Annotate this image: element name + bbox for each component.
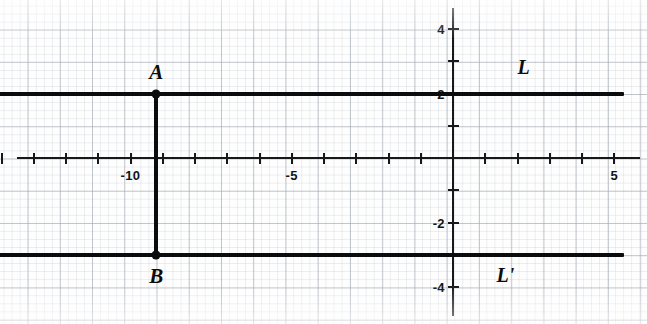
x-tick-label: -10 <box>121 168 141 183</box>
y-tick-label: 4 <box>415 22 445 37</box>
x-tick <box>355 153 357 164</box>
x-tick <box>613 153 615 164</box>
graph-line-L-prime <box>0 253 624 257</box>
y-tick <box>448 125 459 127</box>
graph-line-L <box>0 92 624 96</box>
y-tick <box>448 28 459 30</box>
x-tick <box>549 153 551 164</box>
x-axis <box>17 157 640 159</box>
x-tick <box>194 153 196 164</box>
y-tick-label: -2 <box>415 215 445 230</box>
y-axis <box>452 8 454 316</box>
x-tick <box>97 153 99 164</box>
y-tick <box>448 222 459 224</box>
x-tick <box>388 153 390 164</box>
line-label-L: L <box>518 56 530 79</box>
x-tick <box>162 153 164 164</box>
point-a <box>152 89 161 98</box>
x-tick <box>259 153 261 164</box>
x-tick <box>323 153 325 164</box>
x-tick <box>291 153 293 164</box>
segment-AB <box>154 94 158 255</box>
line-label-L-prime: L' <box>497 264 515 287</box>
x-tick <box>33 153 35 164</box>
y-tick <box>448 60 459 62</box>
point-label-b: B <box>149 264 163 289</box>
point-label-a: A <box>149 60 163 85</box>
x-tick <box>1 153 3 164</box>
x-tick <box>226 153 228 164</box>
y-tick <box>448 189 459 191</box>
x-tick-label: -5 <box>286 168 298 183</box>
x-tick <box>484 153 486 164</box>
x-tick <box>130 153 132 164</box>
x-tick <box>581 153 583 164</box>
x-tick <box>420 153 422 164</box>
y-tick <box>448 286 459 288</box>
x-tick <box>517 153 519 164</box>
point-b <box>152 250 161 259</box>
x-tick-label: 5 <box>610 168 618 183</box>
y-tick-label: -4 <box>415 280 445 295</box>
coordinate-plane-figure: -10-55 42-2-4 LL' AB <box>0 0 647 324</box>
x-tick <box>65 153 67 164</box>
